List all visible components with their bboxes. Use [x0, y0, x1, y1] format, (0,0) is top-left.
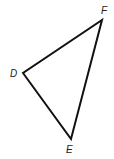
vertex-label-d: D: [10, 68, 17, 79]
triangle-diagram: D E F: [0, 0, 114, 159]
vertex-label-e: E: [66, 144, 73, 155]
triangle-def: [23, 20, 102, 139]
vertex-label-f: F: [101, 5, 108, 16]
